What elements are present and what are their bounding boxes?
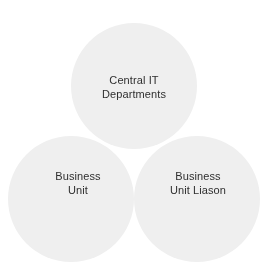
label-central-it-departments-line1: Central IT [44, 73, 224, 87]
venn-diagram: Central IT Departments Business Unit Bus… [0, 0, 268, 275]
label-central-it-departments: Central IT Departments [44, 73, 224, 101]
label-business-unit-liason-line2: Unit Liason [138, 183, 258, 197]
venn-circles-graphic [0, 0, 268, 275]
label-business-unit-liason-line1: Business [138, 169, 258, 183]
label-business-unit-line1: Business [18, 169, 138, 183]
circle-business-unit[interactable] [8, 136, 134, 262]
label-business-unit: Business Unit [18, 169, 138, 197]
label-business-unit-liason: Business Unit Liason [138, 169, 258, 197]
circle-business-unit-liason[interactable] [134, 136, 260, 262]
label-business-unit-line2: Unit [18, 183, 138, 197]
label-central-it-departments-line2: Departments [44, 87, 224, 101]
